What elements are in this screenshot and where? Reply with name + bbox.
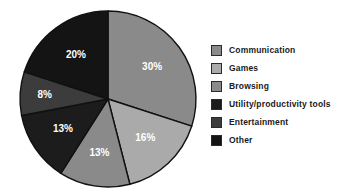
legend-label-communication: Communication [229,46,295,55]
legend-swatch-icon-communication [211,45,222,56]
legend-item-browsing[interactable]: Browsing [211,77,351,95]
pie-slice-label: 16% [135,132,155,143]
legend-swatch-icon-browsing [211,81,222,92]
legend-item-games[interactable]: Games [211,59,351,77]
pie-slice-label: 8% [38,89,53,100]
legend-swatch-icon-entertainment [211,117,222,128]
legend-swatch-icon-games [211,63,222,74]
legend-item-other[interactable]: Other [211,131,351,149]
pie-slice-label: 13% [53,123,73,134]
legend-swatch-icon-other [211,135,222,146]
pie-svg: 30%16%13%13%8%20% [0,0,215,192]
chart-legend: Communication Games Browsing Utility/pro… [211,41,351,149]
pie-slice-label: 30% [142,61,162,72]
legend-label-entertainment: Entertainment [229,118,288,127]
legend-item-entertainment[interactable]: Entertainment [211,113,351,131]
legend-item-utility-productivity-tools[interactable]: Utility/productivity tools [211,95,351,113]
legend-item-communication[interactable]: Communication [211,41,351,59]
legend-label-games: Games [229,64,258,73]
legend-swatch-icon-utility-productivity-tools [211,99,222,110]
legend-label-other: Other [229,136,253,145]
pie-plot-area: 30%16%13%13%8%20% [0,0,215,192]
pie-chart: 30%16%13%13%8%20% Communication Games Br… [0,0,351,192]
legend-label-browsing: Browsing [229,82,269,91]
pie-slice-label: 13% [89,147,109,158]
legend-label-utility-productivity-tools: Utility/productivity tools [229,100,331,109]
pie-slice-label: 20% [66,49,86,60]
